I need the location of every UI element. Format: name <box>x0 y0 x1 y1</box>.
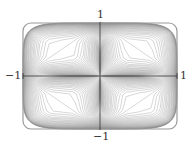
parametric-curve-figure <box>0 0 193 147</box>
y-axis-max-label: 1 <box>97 9 104 20</box>
y-axis-min-label: −1 <box>93 131 109 142</box>
x-axis-max-label: 1 <box>180 70 187 81</box>
x-axis-min-label: −1 <box>5 70 21 81</box>
